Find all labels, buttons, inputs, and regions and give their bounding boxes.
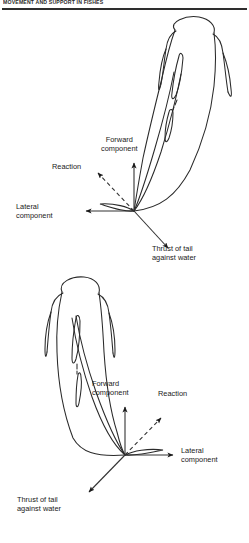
lower-reaction-label: Reaction: [158, 390, 187, 399]
label-line-2: component: [16, 211, 53, 220]
thrust-arrow: [134, 211, 168, 248]
fish-lower: [45, 277, 163, 456]
upper-lateral-component-label: Lateral component: [16, 203, 53, 220]
upper-forward-component-label: Forward component: [101, 136, 138, 153]
label-line-1: Reaction: [52, 162, 81, 171]
label-line-2: component: [101, 144, 138, 153]
lower-thrust-label: Thrust of tail against water: [17, 496, 61, 513]
fish-upper: [100, 17, 231, 212]
upper-reaction-label: Reaction: [52, 163, 81, 172]
label-line-2: against water: [17, 504, 61, 513]
figure-page: MOVEMENT AND SUPPORT IN FISHES: [0, 0, 249, 543]
upper-thrust-label: Thrust of tail against water: [152, 245, 196, 262]
lower-forward-component-label: Forward component: [92, 380, 129, 397]
label-line-2: component: [181, 455, 218, 464]
label-line-2: against water: [152, 253, 196, 262]
lower-lateral-component-label: Lateral component: [181, 447, 218, 464]
label-line-2: component: [92, 388, 129, 397]
thrust-arrow: [89, 455, 125, 492]
label-line-1: Reaction: [158, 389, 187, 398]
